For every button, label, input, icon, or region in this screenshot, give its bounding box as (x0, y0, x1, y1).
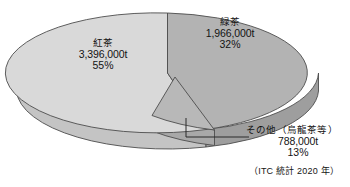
black-tea-slice-label: 紅茶 3,396,000t 55% (47, 38, 159, 72)
green-tea-slice-label: 緑茶 1,966,000t 32% (182, 17, 278, 51)
other-label-percent: 13% (246, 147, 350, 159)
green-tea-label-percent: 32% (182, 39, 278, 51)
pie-chart-figure: 紅茶 3,396,000t 55% 緑茶 1,966,000t 32% その他（… (0, 0, 350, 187)
other-slice-label: その他（烏龍茶等） 788,000t 13% (246, 125, 350, 159)
source-citation: （ITC 統計 2020 年） (240, 164, 348, 177)
black-tea-label-percent: 55% (47, 60, 159, 72)
